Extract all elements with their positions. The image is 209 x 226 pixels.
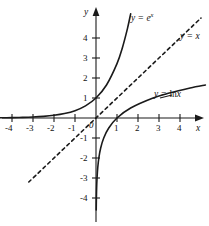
logarithm-curve-label: y = lnx [154,90,181,100]
identity-line-label: y = x [180,32,200,42]
identity-line-curve [29,18,201,182]
exponential-curve [0,14,131,118]
x-tick-label-neg2: -2 [47,124,55,133]
origin-label: 0 [89,121,94,130]
x-axis-label: x [196,124,200,134]
y-tick-label-3: 3 [83,54,88,63]
exponential-curve-label: y = ex [131,14,153,24]
y-tick-label-neg4: -4 [80,194,88,203]
y-axis-label: y [84,8,88,18]
x-tick-label-neg4: -4 [5,124,13,133]
exponential-curve-label-exponent: x [151,11,154,18]
x-tick-label-2: 2 [135,124,140,133]
x-tick-label-4: 4 [177,124,182,133]
logarithm-curve-label-arg: x [177,89,181,99]
logarithm-curve-label-fn: ln [169,89,176,99]
x-tick-label-neg1: -1 [68,124,76,133]
logarithm-curve [96,85,205,210]
coordinate-plane [0,0,209,226]
y-tick-label-neg3: -3 [80,174,88,183]
y-tick-label-2: 2 [83,74,88,83]
y-tick-label-4: 4 [83,34,88,43]
y-tick-label-neg2: -2 [80,154,88,163]
y-tick-label-neg1: -1 [80,134,88,143]
x-axis [2,115,204,122]
x-tick-label-3: 3 [156,124,161,133]
y-tick-label-1: 1 [83,94,88,103]
function-graph-figure: y x 0 -4 -3 -2 -1 1 2 3 4 4 3 2 1 -1 -2 … [0,0,209,226]
x-tick-label-1: 1 [114,124,119,133]
logarithm-curve-label-prefix: y = [154,89,169,99]
exponential-curve-label-base: y = e [131,13,151,23]
x-tick-label-neg3: -3 [26,124,34,133]
